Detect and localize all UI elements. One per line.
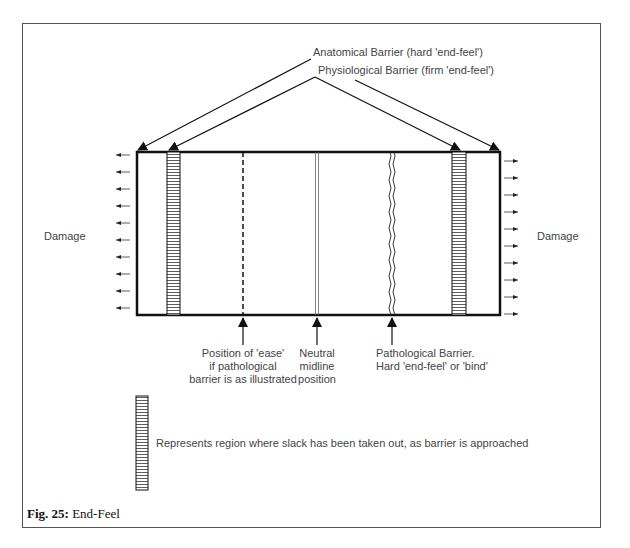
legend-hatch-swatch xyxy=(136,396,148,490)
end-feel-diagram: Anatomical Barrier (hard 'end-feel') Phy… xyxy=(0,0,630,548)
ease-label-line2: if pathological xyxy=(209,360,276,372)
caption-number: Fig. 25: xyxy=(27,506,69,521)
anatomical-right-arrow xyxy=(355,80,499,150)
pathological-label-line2: Hard 'end-feel' or 'bind' xyxy=(376,360,488,372)
pathological-label-line1: Pathological Barrier. xyxy=(376,347,474,359)
physiological-label: Physiological Barrier (firm 'end-feel') xyxy=(318,64,494,76)
damage-right-label: Damage xyxy=(537,230,579,242)
right-slack-region xyxy=(452,152,466,315)
anatomical-left-arrow xyxy=(138,59,311,150)
left-slack-region xyxy=(167,152,180,315)
ease-label-line1: Position of 'ease' xyxy=(202,347,284,359)
neutral-label-line2: midline xyxy=(300,360,335,372)
legend-label: Represents region where slack has been t… xyxy=(156,437,528,449)
damage-arrows-left xyxy=(116,155,130,308)
physiological-left-arrow xyxy=(169,77,315,150)
ease-label-line3: barrier is as illustrated xyxy=(189,373,297,385)
physiological-right-arrow xyxy=(315,77,460,150)
neutral-label-line1: Neutral xyxy=(299,347,334,359)
caption-title: End-Feel xyxy=(72,506,120,521)
damage-left-label: Damage xyxy=(44,230,86,242)
anatomical-label: Anatomical Barrier (hard 'end-feel') xyxy=(313,46,483,58)
figure-caption: Fig. 25: End-Feel xyxy=(27,506,120,521)
damage-arrows-right xyxy=(504,161,518,314)
pathological-line-b xyxy=(393,152,395,315)
pathological-line-a xyxy=(389,152,391,315)
neutral-label-line3: position xyxy=(298,373,336,385)
